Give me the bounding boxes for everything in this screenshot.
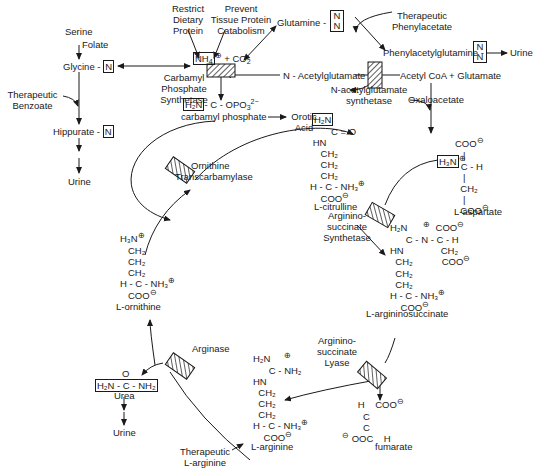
fumarate-label: fumarate [375,441,413,452]
argininosuccinate-structure: H₂N ⊕ COO⊖ C - N - C - H HN CH₂ CH₂ COO⊖… [390,222,470,314]
otc-label-2: Transcarbamylase [175,171,253,182]
phenylacetylglutamine-label: Phenylacetylglutamine - [383,47,484,58]
urea-carbonyl: O [122,368,129,379]
otc-label: Ornithine [191,160,230,171]
therapeutic-benzoate-label: TherapeuticBenzoate [5,89,60,111]
glutamine-n-box: NN [330,10,344,32]
citrulline-structure: C = O HN CH₂ CH₂ CH₂ H - C - NH₃⊕ COO⊖ [310,126,365,205]
carbamyl-phosphate-label: carbamyl phosphate [181,111,267,122]
argininosuccinate-label: L-argininosuccinate [366,308,448,319]
ornithine-label: L-ornithine [116,301,161,312]
ass-label: Arginino-succinateSynthetase [322,210,372,243]
folate-label: Folate [82,39,108,50]
arginine-label: L-arginine [251,441,293,452]
hippurate-label: Hippurate - N [53,126,114,137]
glutamine-label: Glutamine - [277,17,326,28]
urine-phenylacetyl-label: Urine [510,47,533,58]
restrict-dietary-protein-label: RestrictDietaryProtein [166,3,210,36]
arginase-enzyme-box [165,353,194,379]
oxaloacetate-label: Oxaloacetate [408,94,464,105]
arginine-structure: H₂N ⊕ C - NH₂ HN CH₂ CH₂ CH₂ H - C - NH₃… [253,353,308,444]
urea-urine-label: Urine [113,427,136,438]
aspartate-label: L-aspartate [454,206,502,217]
nags-label: N-acetylglutamatesynthetase [322,84,416,106]
citrulline-h2n: H₂N [312,114,333,125]
acetylcoa-glutamate-label: Acetyl CoA + Glutamate [400,70,501,81]
carbamyl-phosphate-formula: H₂N- C - OPO32− [183,99,259,110]
glycine-label: Glycine - N [63,61,114,72]
therapeutic-phenylacetate-label: TherapeuticPhenylacetate [390,10,454,32]
phenylacetylglutamine-n-box: NN [473,41,487,63]
ornithine-structure: H₃N⊕ CH₂ CH₂ CH₂ H - C - NH₃⊕ COO⊖ [120,233,175,302]
n-acetylglutamate-label: N - Acetylglutamate [283,70,365,81]
serine-label: Serine [65,26,92,37]
asl-label: Arginino-succinateLyase [312,335,362,368]
urea-label: Urea [114,390,135,401]
arginase-label: Arginase [192,343,230,354]
fumarate-structure: H COO⊖ C C ⊖ OOC H [342,399,404,445]
therapeutic-arginine-label: TherapeuticL-arginine [177,446,233,468]
cps-enzyme-box [207,64,235,77]
nh4-co2-label: NH4⊕ + CO2 [193,53,251,65]
aspartate-amine: H₃N⊕ [437,156,466,168]
urine-hippurate-label: Urine [68,176,91,187]
prevent-catabolism-label: PreventTissue ProteinCatabolism [208,3,274,36]
